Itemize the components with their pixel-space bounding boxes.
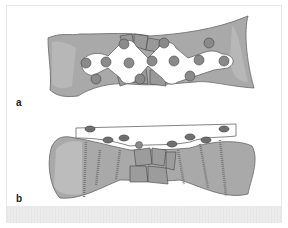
panel-label-a: a [16,97,22,108]
panel-b-bone [49,137,255,198]
diagram-canvas [0,0,288,228]
panel-label-b: b [16,193,22,204]
footer-band [7,206,281,222]
